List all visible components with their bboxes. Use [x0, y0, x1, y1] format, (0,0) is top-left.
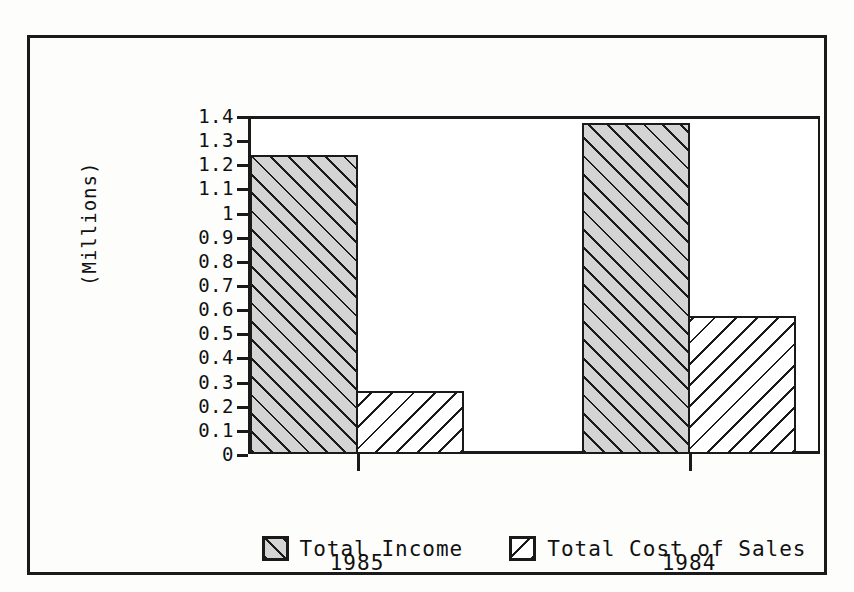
chart-outer-frame: (Millions) 00.10.20.30.40.50.60.70.80.91… [27, 35, 827, 575]
y-axis-tick [237, 309, 248, 312]
bar [356, 391, 464, 454]
y-axis-tick-label: 1.3 [198, 131, 234, 150]
y-axis-title: (Millions) [78, 162, 100, 286]
y-axis-tick [237, 116, 248, 119]
legend-item: Total Cost of Sales [509, 536, 806, 561]
x-axis-tick [689, 454, 692, 471]
y-axis-tick-label: 1.1 [198, 179, 234, 198]
y-axis-tick [237, 285, 248, 288]
y-axis-tick-label: 0.1 [198, 420, 234, 439]
y-axis-tick [237, 164, 248, 167]
y-axis-tick-label: 0.2 [198, 396, 234, 415]
y-axis-tick-label: 0 [222, 445, 234, 464]
legend-swatch [509, 536, 536, 561]
y-axis-tick-label: 0.5 [198, 324, 234, 343]
y-axis-tick-label: 0.8 [198, 251, 234, 270]
legend-swatch [262, 536, 289, 561]
y-axis-tick-label: 0.4 [198, 348, 234, 367]
x-axis-tick [357, 454, 360, 471]
chart-legend: Total IncomeTotal Cost of Sales [248, 536, 820, 561]
y-axis-tick [237, 188, 248, 191]
y-axis-tick [237, 406, 248, 409]
y-axis-tick [237, 430, 248, 433]
y-axis-tick [237, 213, 248, 216]
y-axis-tick [237, 237, 248, 240]
bar [250, 155, 358, 454]
y-axis-tick [237, 261, 248, 264]
bar [688, 316, 796, 454]
legend-label: Total Cost of Sales [547, 537, 806, 561]
bar [582, 123, 690, 454]
y-axis-tick-label: 0.7 [198, 276, 234, 295]
y-axis-tick [237, 454, 248, 457]
y-axis-tick-label: 1 [222, 203, 234, 222]
y-axis-tick [237, 140, 248, 143]
y-axis-tick-label: 0.6 [198, 300, 234, 319]
y-axis-tick [237, 357, 248, 360]
bars-layer [248, 116, 820, 454]
y-axis-tick [237, 333, 248, 336]
y-axis-tick [237, 382, 248, 385]
legend-item: Total Income [262, 536, 464, 561]
legend-label: Total Income [300, 537, 464, 561]
y-axis-tick-label: 1.2 [198, 155, 234, 174]
y-axis-tick-label: 1.4 [198, 107, 234, 126]
y-axis-tick-label: 0.3 [198, 372, 234, 391]
y-axis-tick-label: 0.9 [198, 227, 234, 246]
